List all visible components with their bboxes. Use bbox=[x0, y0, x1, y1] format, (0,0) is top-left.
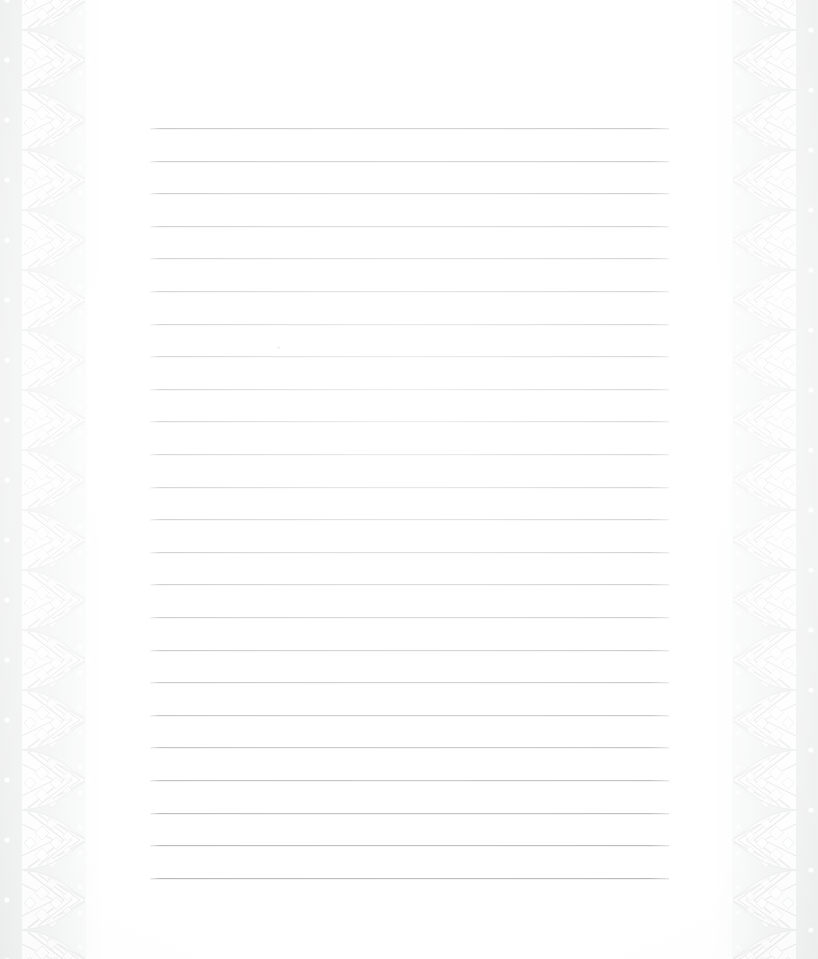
scan-speck bbox=[277, 346, 280, 349]
notepaper-page bbox=[0, 0, 818, 959]
writing-paper-sheet bbox=[100, 0, 718, 959]
